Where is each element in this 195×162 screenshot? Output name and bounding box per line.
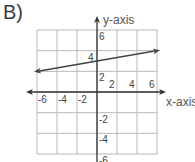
x-tick-label: -4: [58, 95, 67, 105]
y-tick-label: 2: [99, 73, 105, 83]
x-axis-title: x-axis: [166, 96, 195, 108]
x-tick-label: 2: [109, 80, 115, 90]
axes: [26, 16, 166, 162]
x-tick-label: -6: [38, 95, 47, 105]
x-tick-label: -2: [78, 95, 87, 105]
y-tick-label: -4: [99, 135, 108, 145]
y-tick-label: -6: [99, 156, 108, 162]
y-tick-label: -2: [99, 115, 108, 125]
y-tick-label: 4: [88, 53, 94, 63]
coordinate-plane: [0, 0, 195, 162]
y-axis-title: y-axis: [103, 14, 134, 26]
x-tick-label: 4: [129, 80, 135, 90]
x-tick-label: 6: [149, 80, 155, 90]
y-tick-label: 6: [99, 32, 105, 42]
